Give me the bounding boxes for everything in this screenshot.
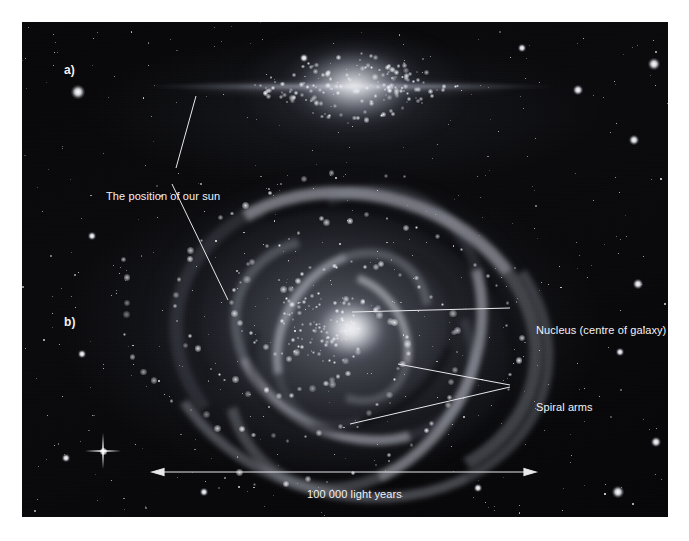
label-scale-bar: 100 000 light years: [307, 488, 402, 501]
label-nucleus: Nucleus (centre of galaxy): [536, 324, 666, 337]
label-position-of-our-sun: The position of our sun: [106, 190, 220, 203]
label-spiral-arms: Spiral arms: [536, 401, 593, 414]
panel-label-b: b): [64, 316, 76, 329]
galaxy-photographic-plate: a) b) The position of our sun Nucleus (c…: [22, 22, 668, 517]
panel-label-a: a): [64, 64, 75, 77]
figure-page: a) b) The position of our sun Nucleus (c…: [0, 0, 689, 541]
film-grain-overlay: [22, 22, 668, 517]
